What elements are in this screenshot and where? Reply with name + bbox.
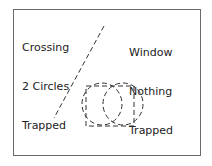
crossing-selection-line: [54, 26, 104, 118]
left-circle: [82, 83, 122, 125]
diagram-canvas: [0, 0, 212, 166]
window-selection-rect: [86, 86, 134, 126]
right-circle: [103, 83, 143, 125]
